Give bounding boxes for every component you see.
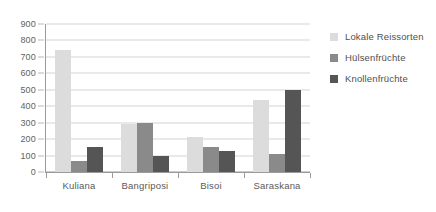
bar [187,137,203,172]
bar [269,154,285,172]
bar [87,147,103,172]
legend-label: Lokale Reissorten [345,31,424,42]
x-axis-tick-mark [310,173,311,178]
x-axis-tick-labels: KulianaBangriposiBisoiSaraskana [46,180,310,196]
x-axis-tick-mark [178,173,179,178]
bar [121,124,137,172]
legend-label: Hülsenfrüchte [345,52,406,63]
y-axis-tick-label: 700 [20,52,36,61]
bar-group [244,24,310,172]
plot-area [46,24,310,172]
y-axis-tick-mark [38,172,44,173]
y-axis-tick-label: 400 [20,102,36,111]
y-axis-tick-mark [38,40,44,41]
legend-swatch-icon [330,33,338,41]
legend-item[interactable]: Knollenfrüchte [330,68,436,89]
bar [55,50,71,172]
x-axis-tick-label: Bangriposi [112,180,178,196]
bar-group [112,24,178,172]
x-axis-tick-label: Saraskana [244,180,310,196]
bar-chart: 9008007006005004003002001000 KulianaBang… [0,0,436,212]
x-axis-tick-mark [112,173,113,178]
bar-group [46,24,112,172]
legend-swatch-icon [330,54,338,62]
y-axis-tick-label: 600 [20,69,36,78]
plot-wrapper: 9008007006005004003002001000 KulianaBang… [0,0,320,212]
y-axis-tick-marks [38,24,44,172]
y-axis-tick-labels: 9008007006005004003002001000 [0,24,36,172]
y-axis-tick-mark [38,106,44,107]
bar-group [178,24,244,172]
x-axis-tick-marks [46,173,310,178]
y-axis-tick-label: 500 [20,85,36,94]
y-axis-tick-mark [38,56,44,57]
y-axis-tick-label: 0 [31,168,36,177]
y-axis-tick-mark [38,89,44,90]
x-axis-tick-label: Kuliana [46,180,112,196]
legend-swatch-icon [330,75,338,83]
y-axis-tick-label: 100 [20,151,36,160]
legend-item[interactable]: Lokale Reissorten [330,26,436,47]
legend: Lokale ReissortenHülsenfrüchteKnollenfrü… [330,26,436,89]
y-axis-tick-label: 200 [20,135,36,144]
y-axis-tick-mark [38,122,44,123]
bar [137,123,153,172]
y-axis-tick-label: 900 [20,20,36,29]
y-axis-tick-mark [38,155,44,156]
y-axis-tick-mark [38,139,44,140]
x-axis-tick-mark [46,173,47,178]
bar [285,90,301,172]
bar [219,151,235,172]
legend-label: Knollenfrüchte [345,73,408,84]
x-axis-tick-label: Bisoi [178,180,244,196]
bar-groups [46,24,310,172]
bar [203,147,219,172]
bar [253,100,269,172]
y-axis-tick-mark [38,73,44,74]
legend-item[interactable]: Hülsenfrüchte [330,47,436,68]
x-axis-tick-mark [244,173,245,178]
y-axis-tick-label: 800 [20,36,36,45]
y-axis-tick-mark [38,24,44,25]
bar [71,161,87,173]
bar [153,156,169,172]
y-axis-tick-label: 300 [20,118,36,127]
